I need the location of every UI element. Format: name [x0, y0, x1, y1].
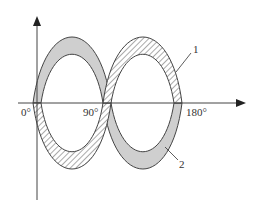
x-tick-90: 90°: [83, 106, 98, 118]
sine-band-diagram: 0° 90° 180° 1 2: [0, 0, 253, 213]
curve-2-leader: [165, 147, 178, 160]
x-tick-0: 0°: [21, 106, 31, 118]
curve-2-label: 2: [179, 158, 185, 170]
x-axis-arrow-icon: [236, 99, 246, 107]
x-tick-180: 180°: [186, 106, 207, 118]
y-axis-arrow-icon: [33, 16, 41, 26]
curve-1-label: 1: [193, 43, 199, 55]
curve-1-leader: [176, 53, 191, 72]
